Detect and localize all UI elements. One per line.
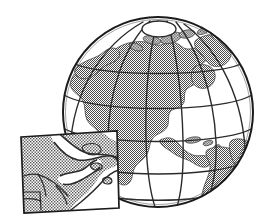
labrador <box>191 65 215 89</box>
illustration-canvas <box>0 0 270 224</box>
globe-illustration: World globe showing North America with r… <box>0 0 270 224</box>
north-pole-cap <box>142 21 176 37</box>
regional-map-inset[interactable] <box>18 128 123 216</box>
island-small <box>91 163 103 170</box>
